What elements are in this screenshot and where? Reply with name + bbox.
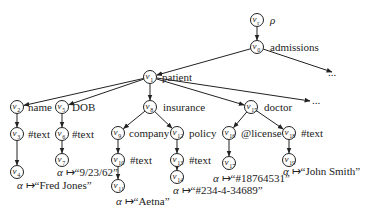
tree-node-v15: v15doctor [245, 101, 293, 114]
tree-node-v1: v1patient [144, 71, 192, 84]
tree-node-v8: v8insurance [144, 101, 206, 114]
xml-tree-diagram: ...... vrρv0admissionsv1patientv2namev3#… [0, 0, 369, 219]
node-id-label: v [58, 154, 62, 164]
value-text: “#18764531” [231, 172, 290, 184]
node-tag-label: company [129, 127, 170, 139]
node-id-subscript: 10 [118, 160, 124, 166]
tree-node-v7: v7 [56, 154, 69, 167]
node-tag-label: #text [189, 154, 211, 166]
alpha-symbol: α [57, 166, 66, 178]
node-id-label: v [253, 41, 257, 51]
value-mapping-v4: α ↦“Fred Jones” [17, 179, 92, 191]
node-id-label: v [173, 171, 177, 181]
node-id-label: v [285, 154, 289, 164]
tree-node-v17: v17 [223, 157, 236, 170]
tree-node-v10: v10#text [112, 154, 153, 167]
value-text: “Aetna” [134, 195, 170, 207]
node-id-subscript: 16 [229, 133, 235, 139]
node-tag-label: name [28, 101, 52, 113]
ellipsis-marker: ... [328, 66, 337, 78]
edge-v8-v12 [155, 112, 172, 129]
tree-node-v5: v5DOB [56, 101, 96, 114]
node-tag-label: policy [189, 127, 217, 139]
tree-node-v11: v11 [112, 180, 125, 193]
value-text: “Fred Jones” [35, 179, 92, 191]
node-id-subscript: 11 [118, 186, 124, 192]
mapsto-arrow: ↦ [222, 172, 231, 184]
node-tag-label: @license [241, 127, 282, 139]
node-id-subscript: 7 [62, 160, 65, 166]
node-id-label: v [247, 101, 251, 111]
node-tag-label: #text [130, 154, 152, 166]
node-id-subscript: 17 [229, 163, 235, 169]
node-id-label: v [173, 154, 177, 164]
node-id-subscript: 13 [177, 160, 183, 166]
tree-node-v16: v16@license [223, 127, 282, 140]
alpha-symbol: α [213, 172, 222, 184]
node-id-subscript: 8 [150, 107, 153, 113]
node-tag-label: #text [72, 128, 94, 140]
alpha-symbol: α [17, 179, 26, 191]
node-id-subscript: 9 [118, 133, 121, 139]
node-tag-label: patient [162, 71, 192, 83]
edge-v15-v16 [234, 112, 247, 128]
tree-node-v14: v14 [171, 171, 184, 184]
node-id-subscript: 15 [251, 107, 257, 113]
mapsto-arrow: ↦ [292, 165, 301, 177]
node-id-label: v [146, 101, 150, 111]
node-id-subscript: 1 [150, 77, 153, 83]
mapsto-arrow: ↦ [66, 166, 75, 178]
tree-node-v9: v9company [112, 127, 170, 140]
alpha-symbol: α [283, 165, 292, 177]
tree-node-v2: v2name [11, 101, 52, 114]
node-tag-label: insurance [163, 101, 205, 113]
alpha-symbol: α [116, 195, 125, 207]
tree-node-vr: vrρ [251, 14, 276, 27]
node-id-label: v [173, 127, 177, 137]
value-mapping-v11: α ↦“Aetna” [116, 195, 170, 207]
edge-v8-v9 [123, 111, 145, 128]
tree-node-v6: v6#text [56, 128, 95, 141]
node-id-label: v [114, 127, 118, 137]
node-tag-label: #text [301, 127, 323, 139]
node-id-subscript: 2 [17, 107, 20, 113]
node-id-label: v [114, 154, 118, 164]
node-id-subscript: 0 [257, 47, 260, 53]
node-tag-label: ρ [269, 14, 275, 26]
node-id-label: v [114, 180, 118, 190]
node-id-label: v [58, 128, 62, 138]
node-id-label: v [13, 101, 17, 111]
node-id-label: v [225, 127, 229, 137]
tree-node-v4: v4 [11, 166, 24, 179]
node-tag-label: DOB [72, 101, 95, 113]
value-text: “9/23/62” [75, 166, 118, 178]
node-id-label: v [225, 157, 229, 167]
tree-node-v0: v0admissions [251, 41, 319, 54]
mapsto-arrow: ↦ [182, 184, 191, 196]
tree-node-v3: v3#text [11, 128, 51, 141]
tree-node-v18: v18#text [283, 127, 324, 140]
node-tag-label: #text [28, 128, 50, 140]
values-layer: α ↦“Fred Jones”α ↦“9/23/62”α ↦“Aetna”α ↦… [17, 165, 360, 207]
node-id-subscript: 5 [62, 107, 65, 113]
alpha-symbol: α [173, 184, 182, 196]
value-text: “#234-4-34689” [191, 184, 263, 196]
node-id-subscript: 12 [177, 133, 183, 139]
value-mapping-v14: α ↦“#234-4-34689” [173, 184, 263, 196]
node-id-subscript: 6 [62, 134, 65, 140]
node-id-label: v [146, 71, 150, 81]
node-tag-label: doctor [264, 101, 292, 113]
node-id-subscript: 3 [17, 134, 20, 140]
mapsto-arrow: ↦ [26, 179, 35, 191]
value-mapping-v7: α ↦“9/23/62” [57, 166, 118, 178]
mapsto-arrow: ↦ [125, 195, 134, 207]
node-id-label: v [58, 101, 62, 111]
value-mapping-v17: α ↦“#18764531” [213, 172, 290, 184]
node-id-label: v [13, 128, 17, 138]
ellipsis-marker: ... [312, 94, 321, 106]
tree-node-v13: v13#text [171, 154, 212, 167]
tree-node-v12: v12policy [171, 127, 217, 140]
node-id-subscript: 4 [17, 172, 20, 178]
node-id-subscript: r [257, 20, 259, 26]
node-id-label: v [285, 127, 289, 137]
